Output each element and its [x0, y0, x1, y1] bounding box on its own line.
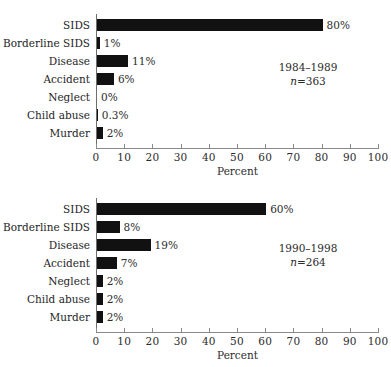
- x-axis-title: Percent: [96, 165, 379, 177]
- x-axis-tick: [209, 144, 210, 149]
- bar: [97, 73, 114, 85]
- bar-row: SIDS60%: [0, 201, 391, 219]
- x-axis-tick: [237, 144, 238, 149]
- bar-value-label: 0%: [101, 91, 118, 104]
- category-label: Borderline SIDS: [0, 37, 90, 50]
- x-axis-tick: [265, 328, 266, 333]
- annotation-n-value: =363: [297, 75, 326, 87]
- bar: [97, 203, 266, 215]
- bar-row: SIDS80%: [0, 17, 391, 35]
- bar-value-label: 11%: [132, 55, 155, 68]
- annotation-period: 1984–1989: [248, 60, 368, 74]
- bar-value-label: 0.3%: [102, 109, 129, 122]
- chart-panel-0: 0102030405060708090100PercentSIDS80%Bord…: [0, 0, 391, 183]
- bar-row: Neglect0%: [0, 89, 391, 107]
- bar-value-label: 60%: [270, 203, 293, 216]
- category-label: Murder: [0, 311, 90, 324]
- figure-two-panel-bar-charts: 0102030405060708090100PercentSIDS80%Bord…: [0, 0, 391, 367]
- plot-area: 0102030405060708090100PercentSIDS80%Bord…: [0, 0, 391, 183]
- bar: [97, 127, 103, 139]
- x-axis-tick: [293, 328, 294, 333]
- x-axis-tick: [181, 144, 182, 149]
- annotation-sample-size: n=363: [248, 74, 368, 88]
- category-label: Neglect: [0, 275, 90, 288]
- category-label: Murder: [0, 127, 90, 140]
- bar: [97, 55, 128, 67]
- annotation-n-symbol: n: [290, 75, 297, 87]
- bar: [97, 257, 117, 269]
- category-label: Disease: [0, 239, 90, 252]
- bar-value-label: 8%: [124, 221, 141, 234]
- x-axis-tick: [350, 328, 351, 333]
- bar: [97, 293, 103, 305]
- plot-area: 0102030405060708090100PercentSIDS60%Bord…: [0, 184, 391, 367]
- x-axis-tick: [265, 144, 266, 149]
- x-axis-tick: [322, 144, 323, 149]
- bar-row: Neglect2%: [0, 273, 391, 291]
- bar-value-label: 80%: [327, 19, 350, 32]
- x-axis-tick: [152, 328, 153, 333]
- category-label: Child abuse: [0, 109, 90, 122]
- category-label: SIDS: [0, 203, 90, 216]
- category-label: Accident: [0, 73, 90, 86]
- x-axis-tick: [124, 328, 125, 333]
- bar-value-label: 2%: [107, 275, 124, 288]
- bar-row: Murder2%: [0, 309, 391, 327]
- bar-value-label: 2%: [107, 293, 124, 306]
- period-annotation: 1990–1998n=264: [248, 241, 368, 269]
- bar: [97, 19, 323, 31]
- x-axis-tick: [378, 144, 379, 149]
- category-label: Accident: [0, 257, 90, 270]
- bar-value-label: 7%: [121, 257, 138, 270]
- x-axis-tick: [293, 144, 294, 149]
- bar: [97, 239, 151, 251]
- bar-value-label: 1%: [104, 37, 121, 50]
- annotation-period: 1990–1998: [248, 241, 368, 255]
- bar: [97, 275, 103, 287]
- bar-row: Borderline SIDS8%: [0, 219, 391, 237]
- x-axis-tick: [152, 144, 153, 149]
- bar: [97, 109, 98, 121]
- bar-value-label: 19%: [155, 239, 178, 252]
- bar: [97, 221, 120, 233]
- category-label: Neglect: [0, 91, 90, 104]
- category-label: Child abuse: [0, 293, 90, 306]
- x-axis-tick: [96, 144, 97, 149]
- bar-row: Child abuse2%: [0, 291, 391, 309]
- category-label: Disease: [0, 55, 90, 68]
- chart-panel-1: 0102030405060708090100PercentSIDS60%Bord…: [0, 184, 391, 367]
- x-axis-tick: [96, 328, 97, 333]
- annotation-n-symbol: n: [290, 256, 297, 268]
- x-axis-tick: [378, 328, 379, 333]
- x-axis-tick-label: 100: [358, 335, 391, 347]
- annotation-n-value: =264: [297, 256, 326, 268]
- bar-row: Child abuse0.3%: [0, 107, 391, 125]
- bar-value-label: 6%: [118, 73, 135, 86]
- x-axis-tick: [181, 328, 182, 333]
- annotation-sample-size: n=264: [248, 255, 368, 269]
- bar-value-label: 2%: [107, 127, 124, 140]
- x-axis-tick: [350, 144, 351, 149]
- bar: [97, 311, 103, 323]
- bar: [97, 37, 100, 49]
- category-label: Borderline SIDS: [0, 221, 90, 234]
- period-annotation: 1984–1989n=363: [248, 60, 368, 88]
- x-axis-tick: [124, 144, 125, 149]
- category-label: SIDS: [0, 19, 90, 32]
- x-axis-tick: [237, 328, 238, 333]
- x-axis-title: Percent: [96, 349, 379, 361]
- x-axis-tick-label: 100: [358, 151, 391, 163]
- bar-value-label: 2%: [107, 311, 124, 324]
- bar-row: Murder2%: [0, 125, 391, 143]
- x-axis-tick: [209, 328, 210, 333]
- x-axis-tick: [322, 328, 323, 333]
- bar-row: Borderline SIDS1%: [0, 35, 391, 53]
